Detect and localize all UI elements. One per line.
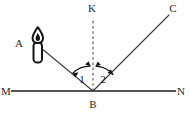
label-normal-top-k: K bbox=[88, 2, 96, 14]
label-source-point-a: A bbox=[15, 37, 23, 49]
incident-ray bbox=[41, 48, 93, 91]
angle-one-arrowhead-right bbox=[85, 61, 91, 66]
label-vertex-b: B bbox=[89, 98, 96, 110]
label-mirror-right-n: N bbox=[177, 85, 185, 97]
label-angle-one: 1 bbox=[79, 73, 85, 85]
label-angle-two: 2 bbox=[100, 73, 106, 85]
angle-two-arrowhead-left bbox=[96, 61, 101, 66]
label-reflected-end-c: C bbox=[169, 2, 176, 14]
diagram-canvas: A K C M N B 1 2 bbox=[0, 0, 189, 118]
reflection-diagram: A K C M N B 1 2 bbox=[0, 0, 189, 118]
label-mirror-left-m: M bbox=[1, 85, 11, 97]
candle-light-source bbox=[34, 43, 43, 63]
